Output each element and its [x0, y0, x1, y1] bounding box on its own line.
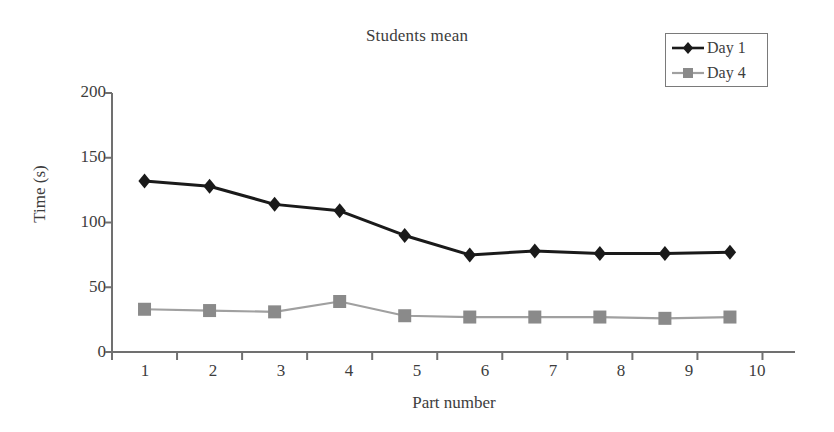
data-point-marker[interactable]: [203, 179, 215, 194]
data-point-marker[interactable]: [334, 203, 346, 218]
data-point-marker[interactable]: [658, 312, 671, 325]
data-point-marker[interactable]: [724, 245, 736, 260]
axes: [105, 93, 795, 360]
legend-marker-square-icon: [671, 66, 705, 80]
data-point-marker[interactable]: [203, 304, 216, 317]
legend-item-day-4[interactable]: Day 4: [671, 60, 765, 86]
data-point-marker[interactable]: [528, 311, 541, 324]
legend-label-day-1: Day 1: [707, 39, 746, 57]
legend: Day 1 Day 4: [665, 33, 768, 87]
data-series-day-1: [138, 174, 736, 263]
series-line: [145, 181, 730, 255]
data-point-marker[interactable]: [659, 246, 671, 261]
data-point-marker[interactable]: [333, 295, 346, 308]
data-point-marker[interactable]: [138, 303, 151, 316]
legend-item-day-1[interactable]: Day 1: [671, 35, 765, 61]
series-line: [145, 302, 730, 319]
data-point-marker[interactable]: [268, 305, 281, 318]
data-point-marker[interactable]: [399, 228, 411, 243]
data-series-day-4: [138, 295, 736, 325]
y-tick-marks: [105, 93, 112, 352]
data-point-marker[interactable]: [268, 197, 280, 212]
data-point-marker[interactable]: [593, 311, 606, 324]
legend-marker-diamond-icon: [671, 41, 705, 55]
data-point-marker[interactable]: [529, 243, 541, 258]
data-point-marker[interactable]: [398, 309, 411, 322]
data-point-marker[interactable]: [463, 311, 476, 324]
data-series-group: [138, 174, 736, 325]
x-tick-marks: [112, 352, 762, 360]
chart-figure: Students mean Time (s) Part number 200 1…: [0, 0, 834, 432]
data-point-marker[interactable]: [138, 174, 150, 189]
legend-label-day-4: Day 4: [707, 64, 746, 82]
data-point-marker[interactable]: [464, 247, 476, 262]
data-point-marker[interactable]: [594, 246, 606, 261]
data-point-marker[interactable]: [723, 311, 736, 324]
